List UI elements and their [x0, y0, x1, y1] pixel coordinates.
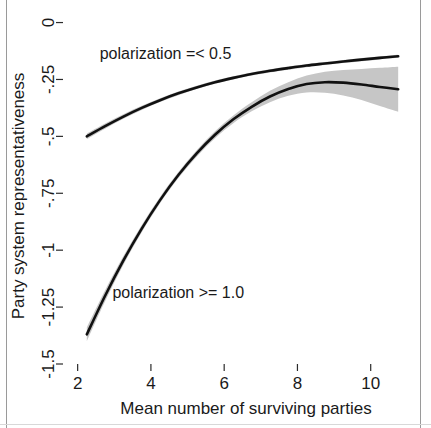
- series-annotation-1: polarization >= 1.0: [112, 284, 244, 301]
- series-annotation-0: polarization =< 0.5: [100, 45, 232, 62]
- y-axis-title: Party system representativeness: [9, 73, 28, 320]
- x-tick-label-0: 2: [73, 374, 82, 393]
- x-axis-title: Mean number of surviving parties: [120, 399, 371, 418]
- y-tick-label-3: -.75: [39, 179, 58, 208]
- x-tick-label-4: 10: [361, 374, 380, 393]
- y-tick-label-5: -1.25: [39, 288, 58, 327]
- y-tick-label-0: 0: [39, 18, 58, 27]
- figure-container: 0-.25-.5-.75-1-1.25-1.5246810 polarizati…: [0, 0, 431, 428]
- y-tick-label-6: -1.5: [39, 349, 58, 378]
- x-tick-label-1: 4: [146, 374, 155, 393]
- y-tick-label-2: -.5: [39, 126, 58, 146]
- y-tick-label-4: -1: [39, 243, 58, 258]
- y-tick-label-1: -.25: [39, 65, 58, 94]
- line-chart: 0-.25-.5-.75-1-1.25-1.5246810 polarizati…: [0, 0, 431, 428]
- x-tick-label-3: 8: [293, 374, 302, 393]
- x-tick-label-2: 6: [219, 374, 228, 393]
